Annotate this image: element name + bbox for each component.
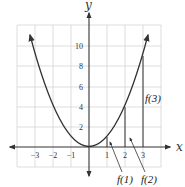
label-f3: f(3) [145, 92, 161, 105]
svg-text:8: 8 [79, 62, 83, 71]
svg-text:−2: −2 [49, 151, 58, 160]
svg-text:2: 2 [79, 123, 83, 132]
svg-text:10: 10 [75, 42, 83, 51]
svg-text:−3: −3 [31, 151, 40, 160]
y-axis-label: y [84, 0, 92, 12]
svg-text:4: 4 [79, 103, 83, 112]
svg-text:1: 1 [105, 151, 109, 160]
label-f2: f(2) [141, 173, 157, 186]
svg-text:2: 2 [123, 151, 127, 160]
svg-text:6: 6 [79, 83, 83, 92]
x-axis-label: x [176, 140, 183, 154]
label-f1: f(1) [117, 173, 133, 186]
parabola-chart: −3 −2 −1 1 2 3 2 4 6 8 10 x y f(3) f(1) … [0, 0, 185, 187]
svg-text:3: 3 [141, 151, 145, 160]
svg-text:−1: −1 [67, 151, 76, 160]
x-tick-labels: −3 −2 −1 1 2 3 [31, 151, 145, 160]
